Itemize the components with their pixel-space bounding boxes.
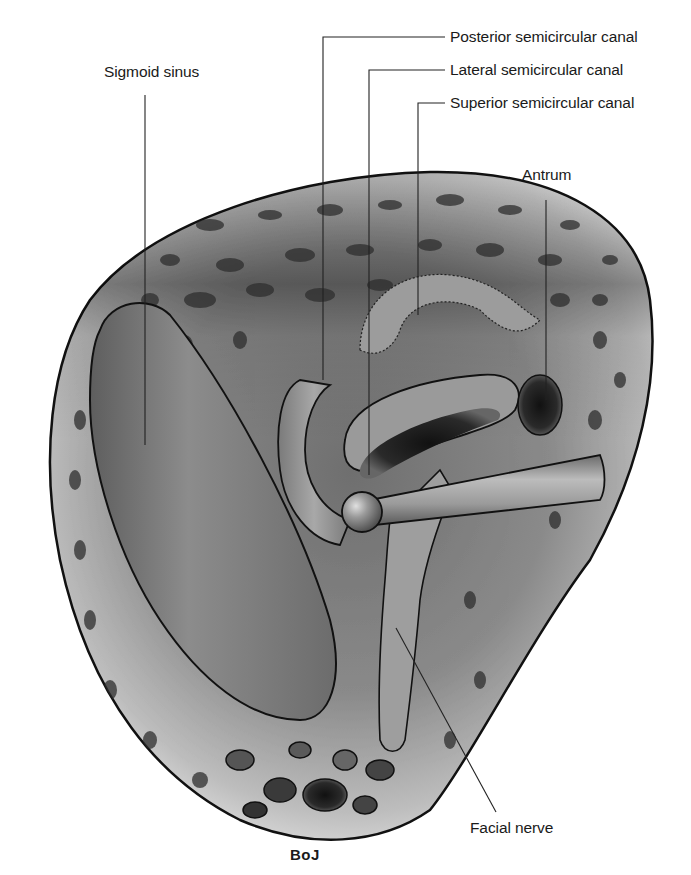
label-lateral-semicircular-canal: Lateral semicircular canal	[450, 62, 623, 78]
label-sigmoid-sinus: Sigmoid sinus	[104, 64, 199, 80]
artist-signature: BoJ	[290, 846, 320, 863]
antrum-opening	[518, 375, 562, 435]
label-antrum: Antrum	[522, 167, 571, 183]
label-posterior-semicircular-canal: Posterior semicircular canal	[450, 29, 638, 45]
mastoid-drawing	[0, 0, 691, 875]
stapes-footplate	[342, 492, 382, 532]
label-facial-nerve: Facial nerve	[470, 820, 553, 836]
anatomical-illustration: Posterior semicircular canal Lateral sem…	[0, 0, 691, 875]
label-superior-semicircular-canal: Superior semicircular canal	[450, 95, 634, 111]
